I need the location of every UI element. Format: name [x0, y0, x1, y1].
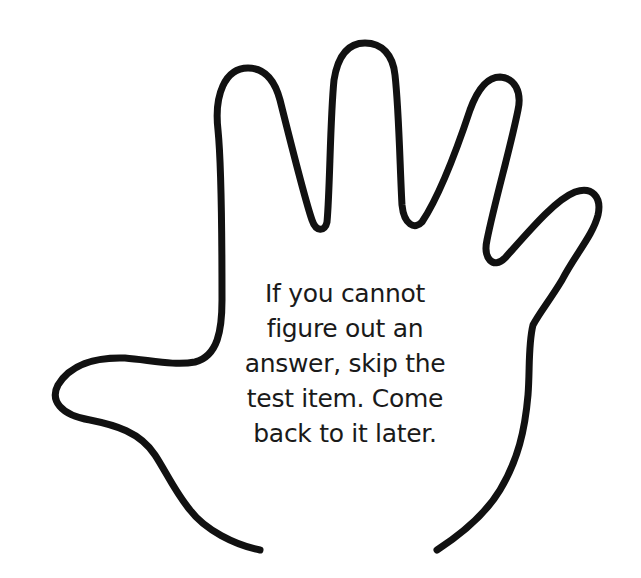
tip-line-2: figure out an	[225, 311, 465, 346]
tip-line-3: answer, skip the	[225, 346, 465, 381]
tip-line-1: If you cannot	[225, 276, 465, 311]
tip-line-5: back to it later.	[225, 416, 465, 451]
tip-text: If you cannot figure out an answer, skip…	[225, 276, 465, 451]
tip-line-4: test item. Come	[225, 381, 465, 416]
